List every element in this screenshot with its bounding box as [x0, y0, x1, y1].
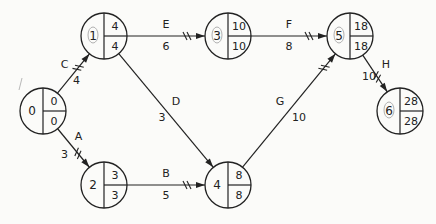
node-id: 6 — [385, 104, 393, 118]
event-node-4: 488 — [205, 162, 251, 208]
event-node-1: 144 — [81, 13, 127, 59]
activity-name: E — [163, 18, 170, 31]
event-node-3: 31010 — [205, 13, 251, 59]
activity-duration: 10 — [362, 70, 376, 83]
node-earliest-time: 0 — [51, 95, 58, 108]
activity-g: G10 — [243, 54, 336, 167]
activity-duration: 3 — [159, 111, 166, 124]
node-earliest-time: 4 — [112, 20, 119, 33]
node-id: 4 — [213, 178, 221, 192]
activity-duration: 4 — [73, 74, 80, 87]
event-node-6: 62828 — [377, 88, 423, 134]
node-latest-time: 3 — [112, 189, 119, 202]
activity-name: H — [382, 58, 390, 71]
activity-name: D — [172, 95, 180, 108]
activity-arrow-line — [119, 54, 214, 168]
activity-b: B5 — [127, 167, 205, 202]
activity-name: C — [61, 58, 69, 71]
critical-slash-icon — [77, 151, 81, 159]
activity-c: C4 — [58, 54, 90, 93]
event-node-0: 000 — [20, 88, 66, 134]
arrowhead-icon — [380, 83, 387, 92]
activity-duration: 10 — [292, 111, 306, 124]
node-latest-time: 18 — [354, 40, 368, 53]
node-latest-time: 10 — [232, 40, 246, 53]
node-earliest-time: 28 — [404, 95, 418, 108]
node-latest-time: 4 — [112, 40, 119, 53]
node-latest-time: 8 — [236, 189, 243, 202]
event-node-5: 51818 — [327, 13, 373, 59]
activity-duration: 8 — [286, 40, 293, 53]
activity-h: H10 — [362, 55, 390, 92]
node-id: 2 — [89, 178, 97, 192]
activity-duration: 6 — [163, 40, 170, 53]
activity-e: E6 — [127, 18, 205, 53]
node-id: 3 — [213, 29, 221, 43]
activity-arrow-line — [243, 54, 336, 167]
activity-name: F — [286, 18, 292, 31]
event-node-2: 233 — [81, 162, 127, 208]
activity-f: F8 — [251, 18, 327, 53]
pencil-mark — [19, 78, 22, 90]
node-latest-time: 28 — [404, 115, 418, 128]
activity-d: D3 — [119, 54, 214, 168]
node-earliest-time: 3 — [112, 169, 119, 182]
network-diagram: C4A3E6D3B5F8G10H100001442333101048851818… — [0, 0, 436, 224]
node-earliest-time: 18 — [354, 20, 368, 33]
activity-a: A3 — [58, 129, 90, 168]
arrowhead-icon — [318, 33, 327, 39]
diagram-svg: C4A3E6D3B5F8G10H100001442333101048851818… — [0, 0, 436, 224]
node-id: 1 — [89, 29, 97, 43]
critical-slash-icon — [75, 148, 79, 156]
arrowhead-icon — [196, 33, 205, 39]
node-earliest-time: 8 — [236, 169, 243, 182]
activity-duration: 3 — [61, 148, 68, 161]
activity-name: B — [162, 167, 170, 180]
node-id: 0 — [28, 104, 36, 118]
node-id: 5 — [335, 29, 343, 43]
node-latest-time: 0 — [51, 115, 58, 128]
node-earliest-time: 10 — [232, 20, 246, 33]
activity-name: G — [276, 95, 285, 108]
arrowhead-icon — [196, 182, 205, 188]
activity-duration: 5 — [163, 189, 170, 202]
activity-name: A — [75, 130, 83, 143]
